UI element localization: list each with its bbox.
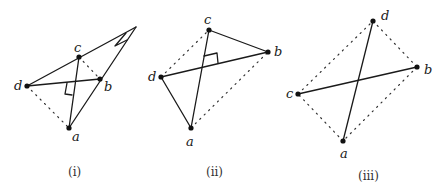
label-d: d [381, 8, 389, 23]
label-a: a [340, 146, 348, 161]
label-a: a [72, 129, 80, 144]
label-d: d [14, 78, 22, 93]
caption-iii: (iii) [358, 169, 379, 183]
right-angle-marker [65, 83, 72, 95]
dotted-edge-cd [298, 21, 373, 94]
right-angle-marker [204, 53, 218, 63]
dotted-edge-ba [343, 67, 417, 141]
point-c [206, 27, 211, 32]
line-cb [209, 30, 268, 52]
diagonal-ca [69, 57, 79, 128]
figure-i: c d b a (i) [14, 27, 136, 179]
point-d [158, 74, 163, 79]
diagram-canvas: c d b a (i) c b d a (ii) [0, 0, 443, 194]
caption-ii: (ii) [206, 165, 223, 179]
label-d: d [148, 69, 156, 84]
label-c: c [286, 86, 294, 101]
point-b [265, 49, 270, 54]
point-a [188, 125, 193, 130]
point-c [295, 91, 300, 96]
point-b [97, 76, 102, 81]
diagonal-ca [191, 30, 209, 128]
point-d [370, 18, 375, 23]
figure-iii: d b c a (iii) [286, 8, 432, 183]
dotted-edge-ac [298, 94, 343, 141]
diagonal-db [161, 52, 268, 77]
point-c [76, 54, 81, 59]
label-b: b [274, 44, 282, 59]
label-b: b [424, 62, 432, 77]
dotted-edge-db [373, 21, 417, 67]
line-da [161, 77, 191, 128]
point-b [414, 64, 419, 69]
label-c: c [74, 40, 82, 55]
label-b: b [104, 79, 112, 94]
point-a [66, 125, 71, 130]
label-c: c [204, 12, 212, 27]
point-d [24, 83, 29, 88]
diagonal-cb [298, 67, 417, 94]
point-a [340, 138, 345, 143]
figure-ii: c b d a (ii) [148, 12, 282, 179]
dotted-edge-da [27, 86, 69, 128]
label-a: a [186, 134, 194, 149]
dotted-edge-cb [79, 57, 100, 79]
caption-i: (i) [68, 165, 81, 179]
